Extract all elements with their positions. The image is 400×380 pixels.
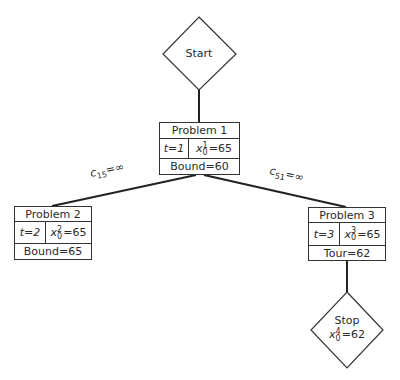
problem-t: t=1 — [160, 139, 189, 158]
problem-x-value: x20=65 — [46, 222, 91, 243]
start-label: Start — [169, 47, 229, 61]
problem-title: Problem 3 — [309, 208, 385, 223]
problem-title: Problem 2 — [15, 207, 91, 222]
stop-label: Stop x40=62 — [312, 314, 382, 342]
problem-3-box: Problem 3 t=3 x30=65 Tour=62 — [308, 207, 386, 261]
problem-footer: Bound=65 — [15, 244, 91, 259]
problem-footer: Bound=60 — [160, 159, 239, 174]
problem-t: t=2 — [15, 222, 46, 243]
problem-1-box: Problem 1 t=1 x10=65 Bound=60 — [159, 122, 240, 175]
problem-x-value: x30=65 — [340, 223, 385, 245]
problem-title: Problem 1 — [160, 123, 239, 139]
stop-x-value: x40=62 — [312, 328, 382, 342]
problem-2-box: Problem 2 t=2 x20=65 Bound=65 — [14, 206, 92, 260]
problem-t: t=3 — [309, 223, 340, 245]
edge-problem1-problem2 — [52, 175, 196, 206]
problem-footer: Tour=62 — [309, 246, 385, 260]
problem-x-value: x10=65 — [189, 139, 239, 158]
